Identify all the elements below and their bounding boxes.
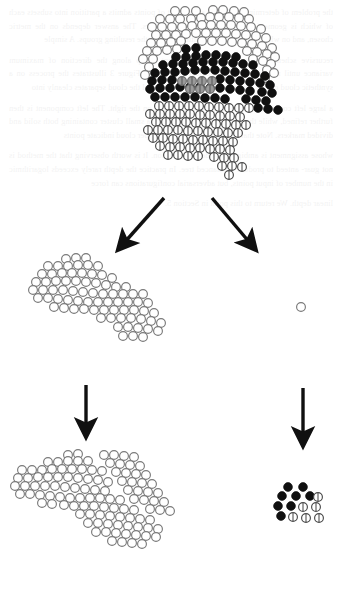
open-circle-marker bbox=[176, 15, 185, 24]
open-circle-marker bbox=[100, 451, 109, 460]
open-circle-marker bbox=[86, 510, 95, 519]
open-circle-marker bbox=[62, 277, 71, 286]
root-cluster-split-circles bbox=[144, 102, 254, 180]
open-circle-marker bbox=[212, 29, 221, 38]
filled-circle-marker bbox=[287, 502, 296, 511]
filled-circle-marker bbox=[306, 492, 315, 501]
open-circle-marker bbox=[60, 501, 69, 510]
filled-circle-marker bbox=[156, 84, 165, 93]
open-circle-marker bbox=[118, 477, 127, 486]
open-circle-marker bbox=[99, 290, 108, 299]
open-circle-marker bbox=[150, 497, 159, 506]
open-circle-marker bbox=[124, 323, 133, 332]
filled-circle-marker bbox=[168, 76, 177, 85]
open-circle-marker bbox=[129, 290, 138, 299]
gray-circle-marker bbox=[198, 77, 207, 86]
open-circle-marker bbox=[132, 470, 141, 479]
open-circle-marker bbox=[146, 505, 155, 514]
split-circle-marker bbox=[195, 102, 204, 111]
open-circle-marker bbox=[50, 303, 59, 312]
open-circle-marker bbox=[124, 486, 133, 495]
filled-circle-marker bbox=[182, 45, 191, 54]
open-circle-marker bbox=[106, 459, 115, 468]
open-circle-marker bbox=[120, 505, 129, 514]
filled-circle-marker bbox=[277, 512, 286, 521]
open-circle-marker bbox=[114, 298, 123, 307]
open-circle-marker bbox=[144, 524, 153, 533]
split-circle-marker bbox=[242, 121, 251, 130]
split-circle-marker bbox=[230, 154, 239, 163]
split-circle-marker bbox=[156, 110, 165, 119]
split-circle-marker bbox=[186, 110, 195, 119]
open-circle-marker bbox=[270, 69, 279, 78]
open-circle-marker bbox=[107, 314, 116, 323]
open-circle-marker bbox=[208, 37, 217, 46]
open-circle-marker bbox=[173, 45, 182, 54]
open-circle-marker bbox=[38, 499, 47, 508]
split-circle-marker bbox=[146, 110, 155, 119]
filled-circle-marker bbox=[278, 492, 287, 501]
filled-circle-marker bbox=[274, 502, 283, 511]
open-circle-marker bbox=[88, 466, 97, 475]
open-circle-marker bbox=[148, 23, 157, 32]
split-circle-marker bbox=[299, 503, 308, 512]
open-circle-marker bbox=[68, 465, 77, 474]
split-circle-marker bbox=[205, 103, 214, 112]
filled-circle-marker bbox=[241, 69, 250, 78]
open-circle-marker bbox=[116, 496, 125, 505]
open-circle-marker bbox=[64, 457, 73, 466]
split-circle-marker bbox=[152, 118, 161, 127]
filled-circle-marker bbox=[146, 85, 155, 94]
open-circle-marker bbox=[44, 262, 53, 271]
filled-circle-marker bbox=[268, 89, 277, 98]
split-circle-marker bbox=[314, 493, 323, 502]
filled-circle-marker bbox=[216, 84, 225, 93]
open-circle-marker bbox=[118, 538, 127, 547]
open-circle-marker bbox=[217, 21, 226, 30]
open-circle-marker bbox=[198, 37, 207, 46]
open-circle-marker bbox=[262, 34, 271, 43]
open-circle-marker bbox=[78, 269, 87, 278]
open-circle-marker bbox=[237, 22, 246, 31]
open-circle-marker bbox=[104, 520, 113, 529]
filled-circle-marker bbox=[191, 93, 200, 102]
open-circle-marker bbox=[102, 281, 111, 290]
filled-circle-marker bbox=[231, 68, 240, 77]
open-circle-marker bbox=[138, 479, 147, 488]
open-circle-marker bbox=[163, 46, 172, 55]
open-circle-marker bbox=[149, 55, 158, 64]
open-circle-marker bbox=[154, 327, 163, 336]
left-child-cluster-open-circles bbox=[29, 254, 166, 342]
open-circle-marker bbox=[122, 469, 131, 478]
filled-circle-marker bbox=[171, 93, 180, 102]
filled-circle-marker bbox=[239, 60, 248, 69]
open-circle-marker bbox=[58, 269, 67, 278]
filled-circle-marker bbox=[181, 93, 190, 102]
open-circle-marker bbox=[81, 485, 90, 494]
split-circle-marker bbox=[232, 121, 241, 130]
open-circle-marker bbox=[102, 528, 111, 537]
open-circle-marker bbox=[146, 516, 155, 525]
split-circle-marker bbox=[185, 102, 194, 111]
open-circle-marker bbox=[74, 474, 83, 483]
open-circle-marker bbox=[110, 504, 119, 513]
open-circle-marker bbox=[137, 315, 146, 324]
arrow-root-to-left bbox=[124, 198, 164, 243]
open-circle-marker bbox=[206, 13, 215, 22]
open-circle-marker bbox=[89, 289, 98, 298]
open-circle-marker bbox=[92, 528, 101, 537]
open-circle-marker bbox=[128, 478, 137, 487]
cluster-partition-figure: the problem of determining whether a giv… bbox=[0, 0, 342, 593]
open-circle-marker bbox=[160, 498, 169, 507]
open-circle-marker bbox=[225, 13, 234, 22]
filled-circle-marker bbox=[256, 79, 265, 88]
filled-circle-marker bbox=[169, 60, 178, 69]
filled-circle-marker bbox=[284, 483, 293, 492]
split-circle-marker bbox=[226, 146, 235, 155]
open-circle-marker bbox=[34, 473, 43, 482]
filled-circle-marker bbox=[242, 95, 251, 104]
split-circle-marker bbox=[206, 145, 215, 154]
filled-circle-marker bbox=[254, 104, 263, 113]
open-circle-marker bbox=[92, 279, 101, 288]
open-circle-marker bbox=[94, 298, 103, 307]
